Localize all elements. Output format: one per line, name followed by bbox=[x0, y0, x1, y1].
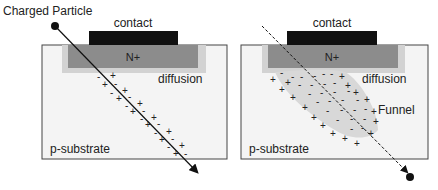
svg-text:-: - bbox=[320, 87, 323, 98]
right-contact-label: contact bbox=[313, 16, 352, 30]
svg-text:+: + bbox=[354, 138, 360, 149]
svg-text:-: - bbox=[157, 118, 160, 129]
svg-text:-: - bbox=[298, 79, 301, 90]
svg-text:+: + bbox=[270, 74, 276, 85]
left-contact bbox=[89, 31, 178, 45]
svg-text:+: + bbox=[290, 92, 296, 103]
right-nplus-label: N+ bbox=[325, 51, 339, 63]
left-diffusion-label: diffusion bbox=[158, 72, 202, 86]
exit-particle-dot bbox=[406, 173, 414, 181]
svg-text:+: + bbox=[302, 102, 308, 113]
svg-text:+: + bbox=[373, 116, 379, 127]
funnel-label: Funnel bbox=[378, 103, 415, 117]
svg-text:+: + bbox=[330, 128, 336, 139]
svg-text:-: - bbox=[350, 123, 353, 134]
svg-text:-: - bbox=[333, 86, 336, 97]
right-substrate-label: p-substrate bbox=[249, 142, 309, 156]
svg-text:-: - bbox=[171, 133, 174, 144]
right-diffusion-label: diffusion bbox=[362, 72, 406, 86]
svg-text:-: - bbox=[356, 94, 359, 105]
left-substrate-label: p-substrate bbox=[50, 142, 110, 156]
svg-text:-: - bbox=[291, 71, 294, 82]
svg-text:-: - bbox=[316, 96, 319, 107]
right-contact bbox=[287, 31, 377, 45]
svg-text:-: - bbox=[347, 85, 350, 96]
svg-text:-: - bbox=[184, 148, 187, 159]
svg-text:+: + bbox=[102, 79, 108, 90]
svg-text:-: - bbox=[336, 114, 339, 125]
svg-text:-: - bbox=[326, 105, 329, 116]
svg-text:+: + bbox=[311, 112, 317, 123]
left-panel: contact N+ diffusion p-substrate Charged… bbox=[3, 4, 227, 172]
svg-text:-: - bbox=[353, 104, 356, 115]
svg-text:-: - bbox=[313, 70, 316, 81]
svg-text:+: + bbox=[320, 120, 326, 131]
svg-text:-: - bbox=[110, 87, 113, 98]
left-nplus-label: N+ bbox=[126, 51, 140, 63]
svg-text:-: - bbox=[128, 91, 131, 102]
left-contact-label: contact bbox=[114, 16, 153, 30]
right-panel: contact N+ diffusion Funnel p-substrate … bbox=[241, 16, 428, 181]
svg-text:-: - bbox=[308, 88, 311, 99]
charged-particle-label: Charged Particle bbox=[3, 4, 93, 18]
svg-text:+: + bbox=[342, 133, 348, 144]
svg-text:-: - bbox=[280, 67, 283, 78]
seu-charge-collection-diagram: contact N+ diffusion p-substrate Charged… bbox=[0, 0, 438, 190]
